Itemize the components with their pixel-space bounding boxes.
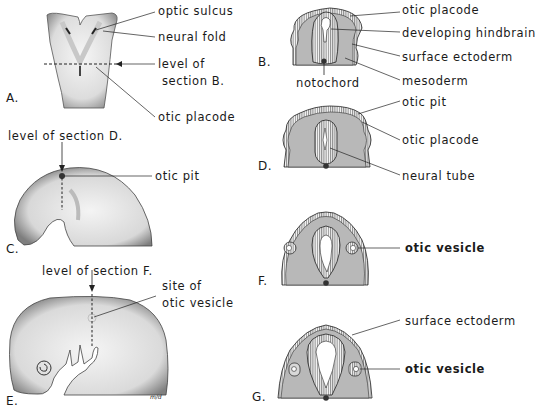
label-optic-sulcus: optic sulcus: [158, 5, 233, 18]
artist-signature: m/d: [150, 390, 162, 403]
panel-letter-e: E.: [6, 394, 18, 408]
panel-letter-g: G.: [252, 390, 266, 404]
panel-c-embryo-lateral: [14, 142, 152, 246]
label-site-of: site of: [162, 280, 202, 293]
panel-letter-f: F.: [258, 274, 268, 288]
panel-a-embryo-dorsal: [44, 12, 155, 117]
panel-e-embryo-lateral: [10, 270, 169, 395]
label-notochord: notochord: [296, 77, 360, 90]
panel-b-section: [291, 8, 400, 80]
panel-d-section: [283, 101, 400, 175]
label-otic-placode-a: otic placode: [158, 111, 235, 124]
label-level-of-section-f: level of section F.: [42, 265, 153, 278]
label-otic-pit-c: otic pit: [155, 170, 200, 183]
label-section-b: section B.: [162, 75, 225, 88]
label-otic-placode-d: otic placode: [402, 134, 479, 147]
label-surface-ectoderm-b: surface ectoderm: [402, 51, 513, 64]
panel-f-section: [282, 212, 400, 286]
label-otic-vesicle-f: otic vesicle: [405, 242, 485, 255]
panel-letter-d: D.: [258, 159, 272, 173]
label-surface-ectoderm-g: surface ectoderm: [405, 315, 516, 328]
label-otic-vesicle-g: otic vesicle: [405, 363, 485, 376]
panel-letter-c: C.: [6, 242, 19, 256]
label-mesoderm: mesoderm: [402, 75, 468, 88]
panel-letter-b: B.: [258, 55, 271, 69]
panel-letter-a: A.: [6, 91, 19, 105]
label-level-of: level of: [158, 58, 205, 71]
label-otic-pit-d: otic pit: [402, 96, 447, 109]
panel-g-section: [278, 320, 400, 401]
label-otic-placode-b: otic placode: [402, 4, 479, 17]
label-level-of-section-d: level of section D.: [8, 130, 123, 143]
label-neural-fold: neural fold: [158, 31, 226, 44]
label-otic-vesicle-e: otic vesicle: [162, 297, 234, 310]
label-neural-tube: neural tube: [402, 170, 475, 183]
label-developing-hindbrain: developing hindbrain: [402, 27, 536, 40]
